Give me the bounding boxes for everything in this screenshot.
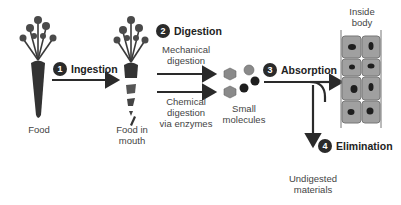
label-mechanical-digestion: Mechanical digestion — [158, 44, 214, 66]
label-food-in-mouth: Food in mouth — [112, 124, 152, 146]
step-absorption: 3 Absorption — [263, 63, 337, 77]
step-elimination: 4 Elimination — [318, 139, 393, 153]
carrot-icon — [20, 16, 57, 118]
step-number-badge: 4 — [318, 139, 332, 153]
digestion-diagram: 1 Ingestion 2 Digestion 3 Absorption 4 E… — [0, 0, 401, 205]
label-undigested-materials: Undigested materials — [284, 173, 342, 195]
elimination-curve — [264, 82, 325, 102]
step-title: Ingestion — [71, 63, 118, 75]
chewed-carrot-icon — [114, 16, 149, 126]
label-inside-body: Inside body — [344, 6, 380, 28]
step-title: Digestion — [174, 25, 222, 37]
label-chemical-digestion: Chemical digestion via enzymes — [158, 96, 214, 129]
step-number-badge: 1 — [53, 62, 67, 76]
small-molecules-icon — [224, 65, 260, 98]
step-title: Absorption — [281, 64, 337, 76]
body-cells-icon — [341, 30, 381, 128]
step-title: Elimination — [336, 140, 393, 152]
step-digestion: 2 Digestion — [156, 24, 222, 38]
label-small-molecules: Small molecules — [218, 103, 270, 125]
label-food: Food — [22, 124, 56, 135]
step-number-badge: 2 — [156, 24, 170, 38]
step-number-badge: 3 — [263, 63, 277, 77]
step-ingestion: 1 Ingestion — [53, 62, 118, 76]
